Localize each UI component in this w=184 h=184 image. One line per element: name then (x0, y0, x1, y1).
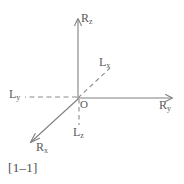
axes-drawing (0, 0, 184, 184)
origin-label: O (80, 99, 88, 110)
axis-label-ry: Ry (159, 99, 171, 113)
axis-line-lx (78, 68, 110, 98)
axis-label-lx: Lx (99, 56, 110, 70)
axis-label-ry-subscript: y (167, 104, 171, 113)
axis-label-rx-base: R (36, 140, 44, 154)
axis-label-ly: Ly (9, 88, 20, 102)
axis-label-rx: Rx (36, 141, 48, 155)
axis-label-rz-subscript: z (89, 17, 93, 26)
axis-label-ry-base: R (159, 98, 167, 112)
figure-caption: [1–1] (8, 161, 38, 174)
axis-label-lx-subscript: x (106, 61, 110, 70)
axis-label-rx-subscript: x (44, 146, 48, 155)
axis-line-rx (31, 99, 78, 142)
axis-label-lz: Lz (73, 126, 84, 140)
coordinate-axes-figure: Rz Ry Rx Lx Ly Lz O [1–1] (0, 0, 184, 184)
axis-label-lz-subscript: z (80, 131, 84, 140)
axis-label-rz: Rz (81, 12, 93, 26)
axis-label-ly-subscript: y (16, 93, 20, 102)
axis-label-rz-base: R (81, 11, 89, 25)
